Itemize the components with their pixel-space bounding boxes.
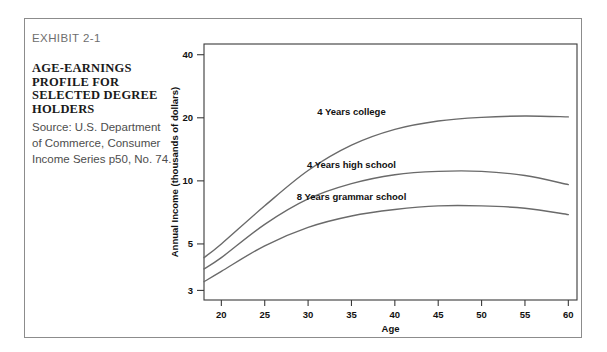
exhibit-label: EXHIBIT 2-1	[32, 32, 101, 44]
exhibit-title: AGE-EARNINGS PROFILE FOR SELECTED DEGREE…	[32, 62, 167, 116]
exhibit-source: Source: U.S. Department of Commerce, Con…	[32, 119, 172, 167]
